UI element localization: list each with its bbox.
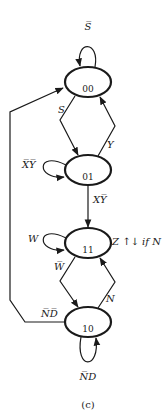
state-diagram: 00 01 11 10 S̅ S Y X̅Y̅ XY̅ W Z ↑↓ if N …: [0, 0, 166, 415]
loop-11: [43, 234, 66, 250]
label-n: N: [105, 293, 116, 304]
loop-10: [80, 337, 96, 362]
label-w: W: [28, 233, 39, 244]
label-nbar-d: N̅D: [79, 371, 97, 382]
label-x-ybar: XY̅: [92, 194, 108, 205]
state-10: 10: [65, 307, 111, 337]
state-10-label: 10: [82, 324, 94, 334]
state-01: 01: [65, 155, 111, 185]
state-01-label: 01: [82, 172, 93, 182]
label-s-bar: S̅: [85, 21, 92, 32]
state-11-output: Z ↑↓ if N: [111, 236, 162, 247]
state-00: 00: [65, 67, 111, 97]
edge-10-00: [10, 88, 65, 322]
figure-caption: (c): [81, 399, 95, 410]
label-xbar-ybar: X̅Y̅: [21, 159, 37, 170]
loop-01: [43, 161, 66, 177]
label-w-bar: W̅: [54, 261, 65, 272]
state-00-label: 00: [82, 84, 94, 94]
label-nbar-dbar: N̅D̅: [40, 308, 58, 319]
loop-00: [79, 47, 95, 67]
state-11-label: 11: [82, 245, 93, 255]
label-y: Y: [107, 139, 115, 150]
label-s: S: [58, 104, 65, 115]
state-11: 11: [65, 228, 111, 258]
